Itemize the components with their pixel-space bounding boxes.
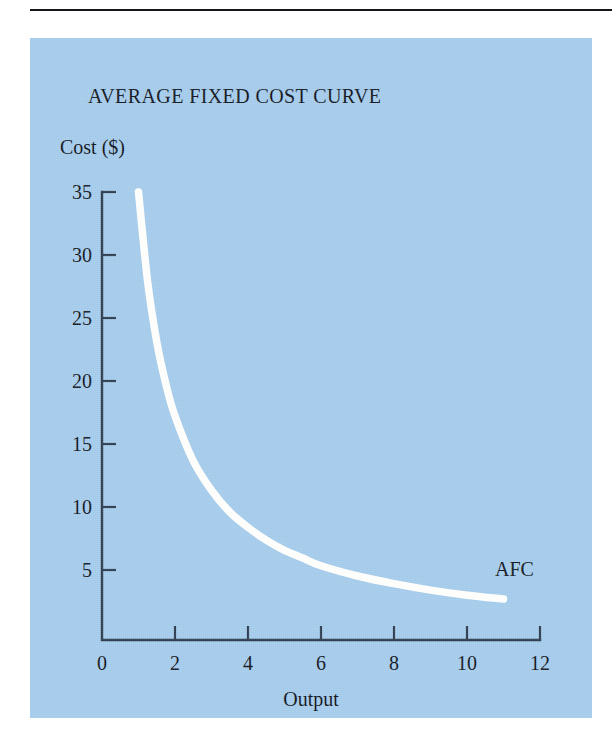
x-axis-ticks xyxy=(175,626,540,640)
x-axis-title: Output xyxy=(30,688,592,711)
axis-lines xyxy=(102,192,540,640)
y-axis-tick-labels: 35 30 25 20 15 10 5 xyxy=(72,181,92,581)
y-tick-label-35: 35 xyxy=(72,181,92,203)
plot-area: 35 30 25 20 15 10 5 0 2 4 6 8 10 12 xyxy=(30,38,592,718)
axis-frame xyxy=(102,192,540,640)
afc-curve xyxy=(139,192,504,599)
y-tick-label-15: 15 xyxy=(72,433,92,455)
x-tick-label-6: 6 xyxy=(316,652,326,674)
y-tick-label-30: 30 xyxy=(72,244,92,266)
x-tick-label-10: 10 xyxy=(457,652,477,674)
x-tick-label-4: 4 xyxy=(243,652,253,674)
y-tick-label-10: 10 xyxy=(72,496,92,518)
y-tick-label-25: 25 xyxy=(72,307,92,329)
y-tick-label-5: 5 xyxy=(82,559,92,581)
figure-panel: AVERAGE FIXED COST CURVE Cost ($) 35 30 … xyxy=(30,38,592,718)
x-tick-label-8: 8 xyxy=(389,652,399,674)
top-divider-rule xyxy=(30,9,612,11)
y-tick-label-20: 20 xyxy=(72,370,92,392)
x-tick-label-0: 0 xyxy=(97,652,107,674)
x-axis-tick-labels: 0 2 4 6 8 10 12 xyxy=(97,652,550,674)
x-tick-label-2: 2 xyxy=(170,652,180,674)
y-axis-ticks xyxy=(102,192,116,570)
afc-series-label: AFC xyxy=(495,558,534,580)
x-tick-label-12: 12 xyxy=(530,652,550,674)
